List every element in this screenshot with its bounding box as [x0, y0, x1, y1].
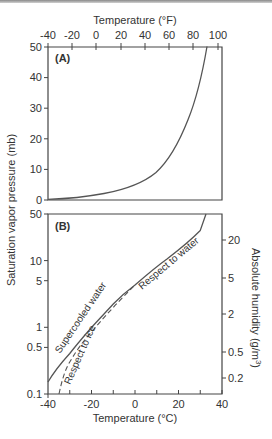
- tick-label: 0: [36, 194, 42, 206]
- tick-label: 20: [228, 234, 240, 246]
- panel-b-label: (B): [55, 220, 71, 232]
- panel-b-x-ticklabels: -40 -20 0 20 40: [40, 398, 228, 410]
- y2-axis-title: Absolute humidity (g/m3): [250, 248, 263, 368]
- tick-label: 100: [209, 29, 227, 41]
- y2-label-close: ): [250, 364, 262, 368]
- tick-label: 40: [216, 398, 228, 410]
- tick-label: 20: [172, 398, 184, 410]
- tick-label: 60: [163, 29, 175, 41]
- panel-b: (B) 0.1 0.5 1 5 10 50 0.2 0.5: [27, 208, 244, 410]
- panel-b-y2-ticklabels: 0.2 0.5 2 5 20: [228, 234, 243, 384]
- tick-label: -40: [40, 29, 56, 41]
- y2-label-text: Absolute humidity (g/m: [250, 248, 262, 360]
- tick-label: 10: [30, 255, 42, 267]
- tick-label: 0: [93, 29, 99, 41]
- bottom-axis-title: Temperature (°C): [93, 412, 177, 424]
- vapor-pressure-figure: Temperature (°F) -40 -20 0 20 40 60 80 1…: [0, 0, 272, 439]
- tick-label: 5: [228, 272, 234, 284]
- tick-label: 40: [30, 71, 42, 83]
- tick-label: -20: [64, 29, 80, 41]
- tick-label: 0: [132, 398, 138, 410]
- tick-label: -40: [40, 398, 56, 410]
- tick-label: 0.5: [228, 346, 243, 358]
- y-axis-title: Saturation vapor pressure (mb): [5, 134, 17, 286]
- top-axis-title: Temperature (°F): [93, 14, 176, 26]
- tick-label: 0.2: [228, 372, 243, 384]
- panel-a-label: (A): [55, 52, 71, 64]
- tick-label: 40: [139, 29, 151, 41]
- tick-label: 20: [30, 133, 42, 145]
- panel-a-curve: [48, 47, 207, 200]
- tick-label: 20: [115, 29, 127, 41]
- panel-a-y-ticklabels: 0 10 20 30 40 50: [30, 41, 42, 206]
- tick-label: 2: [228, 308, 234, 320]
- top-axis-ticks: -40 -20 0 20 40 60 80 100: [40, 29, 227, 41]
- tick-label: 5: [36, 275, 42, 287]
- tick-label: 30: [30, 102, 42, 114]
- tick-label: 10: [30, 163, 42, 175]
- tick-label: 50: [30, 208, 42, 220]
- tick-label: 1: [36, 321, 42, 333]
- tick-label: 50: [30, 41, 42, 53]
- tick-label: 0.5: [27, 341, 42, 353]
- panel-a: (A) 0 10 20 30 40 50: [30, 41, 222, 206]
- tick-label: -20: [84, 398, 100, 410]
- tick-label: 80: [187, 29, 199, 41]
- panel-b-y-ticklabels: 0.1 0.5 1 5 10 50: [27, 208, 42, 400]
- respect-to-water-label: Respect to water: [136, 234, 201, 291]
